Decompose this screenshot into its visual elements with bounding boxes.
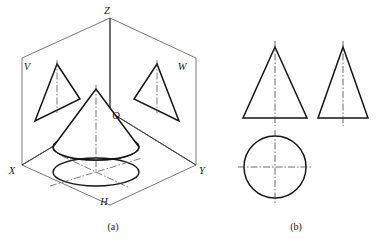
axis-label-x: X	[8, 165, 16, 176]
caption-b: (b)	[290, 221, 302, 233]
plane-label-h: H	[99, 196, 109, 207]
axis-label-y: Y	[199, 165, 206, 176]
axis-label-z: Z	[104, 5, 110, 16]
plane-label-v: V	[24, 61, 32, 72]
plane-label-w: W	[178, 61, 188, 72]
technical-drawing-canvas: Z V W X Y H O (a) (b)	[0, 0, 380, 240]
w-plane-cone-projection	[134, 64, 179, 121]
orthographic-view-group	[238, 41, 368, 204]
v-plane-cone-projection	[35, 64, 80, 121]
caption-a: (a)	[107, 221, 118, 233]
figure-root: Z V W X Y H O (a) (b)	[0, 0, 380, 240]
origin-label-o: O	[112, 110, 120, 121]
pictorial-view-group: Z V W X Y H O	[8, 5, 206, 207]
